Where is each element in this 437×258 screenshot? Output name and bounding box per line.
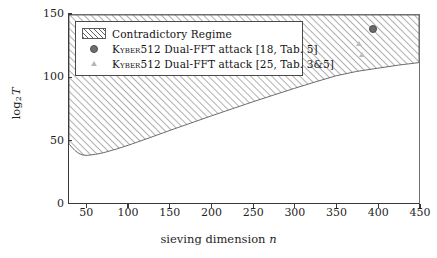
y-axis-label-variable: T [9, 87, 23, 95]
y-tick-150 [68, 13, 72, 14]
x-axis-label: sieving dimension n [0, 232, 437, 246]
y-axis-label: log2 T [9, 63, 24, 143]
legend-label-dual-fft-18: Kyber512 Dual-FFT attack [18, Tab. 5] [112, 43, 318, 55]
legend-label-25-rest: 512 Dual-FFT attack [25, Tab. 3&5] [141, 58, 334, 70]
x-ticklabel-350: 350 [317, 206, 357, 219]
legend-label-dual-fft-25: Kyber512 Dual-FFT attack [25, Tab. 3&5] [112, 58, 334, 70]
x-ticklabel-300: 300 [275, 206, 315, 219]
y-ticklabel-150: 150 [22, 8, 64, 20]
y-axis-label-text: log [9, 101, 23, 119]
x-ticklabel-50: 50 [66, 206, 106, 219]
x-ticklabel-250: 250 [233, 206, 273, 219]
x-ticklabel-200: 200 [191, 206, 231, 219]
x-ticklabel-150: 150 [150, 206, 190, 219]
chart-legend: Contradictory Regime Kyber512 Dual-FFT a… [75, 21, 303, 76]
x-ticklabel-400: 400 [358, 206, 398, 219]
x-ticklabel-450: 450 [400, 206, 437, 219]
legend-label-18-rest: 512 Dual-FFT attack [18, Tab. 5] [141, 43, 318, 55]
triangle-marker-icon [81, 58, 107, 70]
y-tick-50 [68, 140, 72, 141]
legend-item-contradictory-regime: Contradictory Regime [81, 26, 296, 41]
data-point-triangle-2 [359, 52, 365, 57]
legend-label-contradictory-regime: Contradictory Regime [112, 28, 232, 40]
y-tick-100 [68, 77, 72, 78]
circle-marker-icon [81, 43, 107, 55]
y-ticklabel-0: 0 [22, 198, 64, 210]
hatch-swatch-icon [81, 28, 107, 40]
legend-label-18-smallcaps: Kyber [112, 43, 141, 55]
legend-item-dual-fft-25: Kyber512 Dual-FFT attack [25, Tab. 3&5] [81, 56, 296, 71]
x-axis-label-variable: n [269, 232, 276, 246]
y-ticklabel-100: 100 [22, 71, 64, 83]
x-ticklabel-100: 100 [108, 206, 148, 219]
data-point-triangle-1 [356, 41, 362, 46]
legend-label-25-smallcaps: Kyber [112, 58, 141, 70]
y-ticklabel-50: 50 [22, 135, 64, 147]
legend-item-dual-fft-18: Kyber512 Dual-FFT attack [18, Tab. 5] [81, 41, 296, 56]
x-axis-label-text: sieving dimension [160, 232, 269, 246]
data-point-circle-1 [369, 25, 377, 33]
y-axis-label-subscript: 2 [14, 96, 23, 101]
chart-figure: Contradictory Regime Kyber512 Dual-FFT a… [0, 0, 437, 258]
